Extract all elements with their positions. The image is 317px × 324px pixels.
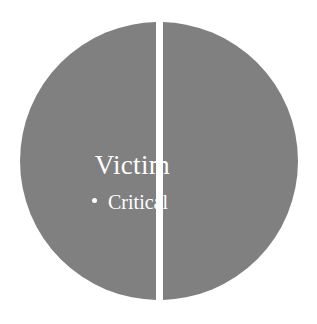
list-item: Critical — [20, 190, 171, 212]
list-item-label: Critical — [108, 192, 168, 212]
bullet-point-icon — [92, 198, 97, 203]
page-title: Victim — [20, 152, 171, 179]
diagram-canvas: Victim Critical — [0, 0, 317, 324]
left-half-label-block: Victim Critical — [20, 152, 171, 212]
split-circle-graphic: Victim Critical — [20, 22, 298, 300]
